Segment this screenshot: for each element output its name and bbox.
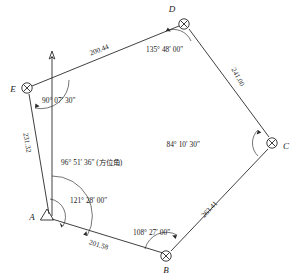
angle-label-C: 84° 10′ 30″	[166, 140, 200, 149]
angle-label-A: 121° 28′ 00″	[70, 196, 107, 205]
station-symbol-B	[161, 251, 171, 261]
angle-arrow-E	[35, 104, 40, 108]
station-symbol-D	[179, 19, 189, 29]
distance-label-E-A: 231.32	[21, 132, 32, 153]
vertex-label-D: D	[168, 4, 176, 14]
leg-B-C	[171, 149, 268, 251]
station-symbol-E	[22, 83, 32, 93]
angle-label-B: 108° 27′ 00″	[133, 228, 170, 237]
distance-label-A-B: 201.58	[88, 238, 110, 252]
leg-E-A	[29, 94, 49, 214]
bearing-angle-label: 96° 51′ 36″ (方位角)	[61, 158, 123, 167]
distance-labels: 201.58 263.41 241.00 200.44 231.32	[21, 43, 246, 252]
angle-label-D: 135° 48′ 00″	[146, 45, 183, 54]
station-symbol-C	[267, 138, 277, 148]
vertex-label-E: E	[9, 84, 16, 94]
vertex-label-C: C	[283, 141, 290, 151]
bearing-arrow-A	[83, 231, 87, 236]
angle-arcs	[35, 28, 261, 249]
bearing-arc-A	[52, 176, 92, 236]
distance-label-C-D: 241.00	[230, 66, 247, 88]
angle-arrow-B	[172, 235, 177, 239]
angle-labels: 121° 28′ 00″ 108° 27′ 00″ 84° 10′ 30″ 13…	[42, 45, 200, 237]
vertex-label-A: A	[28, 212, 35, 222]
north-meridian-arrow	[49, 51, 55, 216]
angle-arrow-A	[60, 222, 63, 227]
traverse-legs	[29, 26, 269, 253]
angle-label-E: 90° 07′ 30″	[42, 96, 76, 105]
vertex-label-B: B	[163, 265, 169, 275]
traverse-diagram: A B C D E 201.58 263.41 241.00 200.44 23…	[0, 0, 300, 280]
leg-C-D	[189, 29, 269, 137]
